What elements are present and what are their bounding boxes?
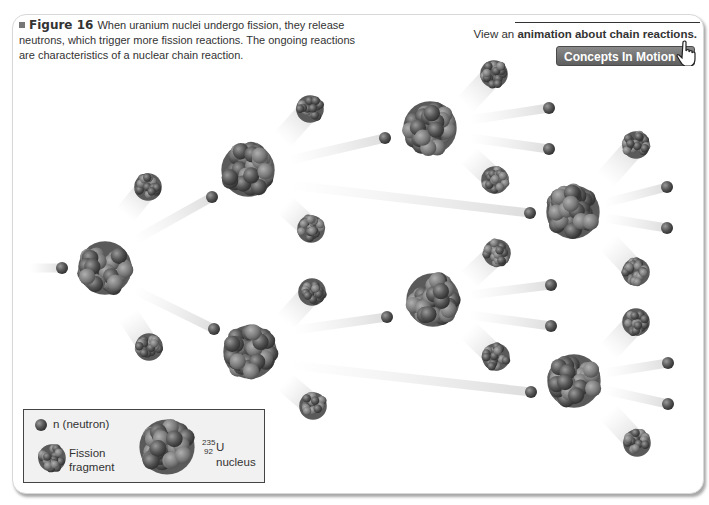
uranium-nucleus	[402, 101, 457, 156]
isotope-atomic-number: 92	[204, 448, 213, 456]
neutron	[545, 320, 557, 332]
fragment-label-line2: fragment	[69, 460, 114, 475]
neutron	[208, 323, 220, 335]
fission-fragment	[622, 131, 650, 159]
fission-fragment	[623, 429, 651, 457]
neutron	[543, 143, 555, 155]
uranium-nucleus	[223, 324, 278, 379]
neutron	[543, 102, 555, 114]
uranium-nucleus	[406, 272, 461, 326]
neutron	[524, 207, 536, 219]
uranium-nucleus	[546, 184, 599, 239]
uranium-nucleus-legend-icon	[139, 419, 194, 475]
isotope-mass-number: 235	[202, 439, 215, 447]
fission-fragment-legend-icon	[38, 444, 66, 472]
neutron	[206, 191, 218, 203]
fission-fragment	[134, 173, 162, 201]
neutron	[381, 311, 393, 323]
neutron	[661, 181, 673, 193]
uranium-nucleus	[77, 241, 133, 295]
neutron	[545, 279, 557, 291]
neutron	[662, 357, 674, 369]
uranium-nucleus	[547, 354, 601, 407]
uranium-nucleus	[221, 142, 274, 197]
legend: n (neutron) Fission fragment 235 92 U nu…	[23, 409, 265, 483]
fission-fragment	[299, 392, 327, 420]
neutron	[379, 132, 391, 144]
neutron	[661, 222, 673, 234]
neutron	[56, 262, 68, 274]
fission-fragment	[481, 166, 509, 194]
neutron-label: n (neutron)	[53, 417, 109, 432]
fragment-label-line1: Fission	[69, 446, 105, 461]
neutron	[662, 398, 674, 410]
particles	[56, 60, 674, 457]
nucleus-label: U nucleus	[216, 440, 264, 470]
fission-fragment	[622, 308, 650, 336]
neutron	[525, 386, 537, 398]
fission-fragment	[298, 278, 327, 306]
neutron-legend-icon	[35, 419, 47, 431]
